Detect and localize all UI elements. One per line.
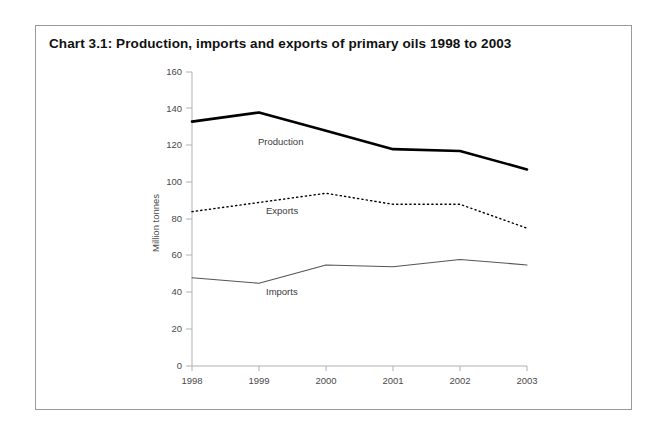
plot-svg xyxy=(0,0,665,432)
series-line-imports xyxy=(192,259,527,283)
series-label-production: Production xyxy=(258,136,303,147)
y-tick-marks xyxy=(186,72,192,366)
x-tick-marks xyxy=(192,366,527,371)
plot-area: 160 140 120 100 80 60 40 20 0 Million to… xyxy=(0,0,665,432)
series-line-exports xyxy=(192,193,527,228)
series-line-production xyxy=(192,112,527,169)
chart-figure: Chart 3.1: Production, imports and expor… xyxy=(0,0,665,432)
series-label-exports: Exports xyxy=(266,205,298,216)
series-label-imports: Imports xyxy=(266,286,298,297)
